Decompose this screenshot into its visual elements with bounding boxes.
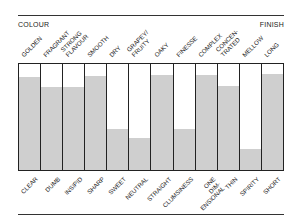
bar-column <box>85 64 107 170</box>
top-axis-label: MELLOW <box>242 35 266 59</box>
bar-fill <box>151 75 172 170</box>
bar-fill <box>196 75 217 170</box>
bottom-axis-label: THIN <box>224 176 239 191</box>
top-axis-label: GOLDEN <box>20 35 43 58</box>
top-axis-label: LONG <box>264 41 281 58</box>
bottom-axis-label: DUMB <box>44 176 61 193</box>
bar-column <box>41 64 63 170</box>
bar-fill <box>85 76 106 170</box>
colour-heading: COLOUR <box>18 21 49 28</box>
top-axis-label: SMOOTH <box>87 35 111 59</box>
top-axis-label: FINESSE <box>175 35 198 58</box>
top-axis-label: OAKY <box>153 42 170 59</box>
bar-column <box>240 64 262 170</box>
bar-column <box>218 64 240 170</box>
bar-column <box>196 64 218 170</box>
bar-fill <box>41 87 62 170</box>
bar-fill <box>174 129 195 170</box>
bar-column <box>174 64 196 170</box>
bottom-axis-label: INSIPID <box>64 176 84 196</box>
bar-fill <box>63 87 84 170</box>
bar-fill <box>19 77 40 170</box>
bar-column <box>262 64 283 170</box>
top-axis-label: DRY <box>109 45 123 59</box>
bar-column <box>151 64 173 170</box>
bar-fill <box>218 86 239 170</box>
top-axis-label: GRAPEY/FRUITY <box>126 29 155 58</box>
finish-heading: FINISH <box>260 21 284 28</box>
bottom-axis-label: SHORT <box>263 176 283 196</box>
bar-column <box>63 64 85 170</box>
bar-fill <box>107 129 128 170</box>
bar-fill <box>262 74 283 170</box>
bottom-axis-label: ONEDIM-ENSIONAL <box>190 176 226 212</box>
bar-column <box>107 64 129 170</box>
bottom-axis-label: SPIRITY <box>239 176 261 198</box>
bottom-axis-label: CLEAR <box>20 176 39 195</box>
bar-fill <box>240 149 261 170</box>
bottom-rule <box>18 214 284 215</box>
bottom-axis-label: SHARP <box>86 176 106 196</box>
bar-column <box>19 64 41 170</box>
top-rule <box>18 15 284 16</box>
bar-column <box>129 64 151 170</box>
bar-chart <box>18 63 284 171</box>
bar-fill <box>129 138 150 170</box>
